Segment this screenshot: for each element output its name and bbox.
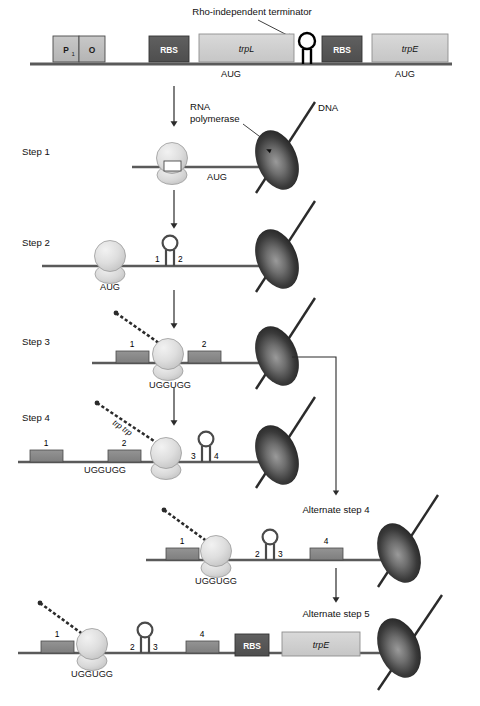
alternate-step-4-codon: UGGUGG (195, 576, 237, 586)
step-3-region-number-1: 1 (130, 339, 135, 349)
step-1-rna-polymerase (247, 124, 307, 196)
dna-label: DNA (318, 102, 339, 113)
alternate-step-5-group: Alternate step 5 1 4 RBS trpE 2 (18, 595, 442, 690)
step-3-rna-polymerase (247, 320, 307, 392)
step-1-label: Step 1 (22, 146, 50, 157)
operon-map: Rho-independent terminator P 1 O RBS trp… (30, 6, 452, 79)
operator-label: O (89, 45, 96, 55)
step-4-rna-polymerase (247, 419, 307, 491)
alternate-step-5-region-number-1: 1 (55, 629, 60, 639)
rna-polymerase-label-line1: RNA (190, 101, 211, 112)
step-3-codon: UGGUGG (149, 380, 191, 390)
step-2-label: Step 2 (22, 237, 50, 248)
alternate-step-5-ribosome (77, 629, 108, 671)
step-4-region-number-2: 2 (122, 438, 127, 448)
alternate-step-5-rna-polymerase (369, 612, 429, 684)
alternate-step-4-region-number-4: 4 (324, 536, 329, 546)
alternate-step-4-region-number-1: 1 (180, 536, 185, 546)
step-3-label: Step 3 (22, 336, 50, 347)
step-3-group: Step 3 1 2 UGGUGG (22, 298, 315, 392)
rbs-label-1: RBS (160, 45, 178, 55)
step-4-region-number-3: 3 (191, 451, 196, 461)
step-1-codon: AUG (207, 172, 227, 182)
promoter-label: P (63, 45, 69, 55)
step-4-region-box-2 (108, 450, 141, 462)
rbs-label-2: RBS (333, 45, 351, 55)
step-3-ribosome (153, 339, 184, 381)
step-2-ribosome (95, 241, 126, 284)
alternate-step-5-region-number-2: 2 (130, 642, 135, 652)
alternate-step-4-region-number-3: 3 (278, 549, 283, 559)
alternate-step-5-polypeptide-chain (38, 601, 88, 638)
step-3-region-number-2: 2 (202, 339, 207, 349)
step-3-region-box-1 (116, 351, 149, 363)
alternate-step-5-trpe-label: trpE (313, 640, 331, 650)
step-2-group: Step 2 1 2 AUG (22, 201, 315, 295)
step-4-codon: UGGUGG (84, 465, 126, 475)
step-4-region-number-1: 1 (44, 438, 49, 448)
terminator-hairpin (299, 33, 315, 64)
step-2-rna-polymerase (247, 223, 307, 295)
alternate-step-4-ribosome (201, 536, 232, 578)
trpe-label: trpE (402, 44, 420, 54)
step-4-region-box-1 (30, 450, 63, 462)
step-1-ribosome (157, 143, 188, 185)
trpe-start-codon: AUG (395, 69, 415, 79)
step-2-hairpin: 1 2 (155, 236, 183, 266)
alternate-step-5-codon: UGGUGG (71, 669, 113, 679)
alternate-step-5-region-number-4: 4 (200, 629, 205, 639)
step-2-codon: AUG (100, 282, 120, 292)
alternate-step-4-region-box-1 (166, 548, 199, 560)
alternate-step-5-rbs-label: RBS (243, 641, 261, 651)
trpl-label: trpL (239, 44, 255, 54)
alternate-step-4-region-number-2: 2 (255, 549, 260, 559)
step-4-region-number-4: 4 (214, 451, 219, 461)
step-3-region-box-2 (188, 351, 221, 363)
diagram-canvas: Rho-independent terminator P 1 O RBS trp… (0, 0, 480, 706)
alternate-step-5-label: Alternate step 5 (302, 608, 369, 619)
alternate-step-4-rna-polymerase (369, 517, 429, 589)
trp-operon-attenuation-figure: Rho-independent terminator P 1 O RBS trp… (0, 0, 480, 706)
step-2-region-number-2: 2 (178, 254, 183, 264)
alternate-step-5-region-box-4 (186, 641, 219, 653)
alternate-step-4-hairpin: 2 3 (255, 530, 283, 560)
step-1-group: Step 1 RNA polymerase DNA AUG (22, 101, 339, 196)
step-4-trp-label: trp trp (111, 418, 134, 438)
branch-to-alternate-step4 (292, 357, 336, 494)
alternate-step-5-hairpin: 2 3 (130, 623, 158, 653)
step-4-hairpin: 3 4 (191, 432, 219, 462)
alternate-step-4-group: Alternate step 4 1 4 2 3 (146, 495, 438, 589)
step-4-group: Step 4 1 2 trp trp 3 4 (18, 397, 315, 491)
alternate-step-4-region-box-4 (310, 548, 343, 560)
alternate-step-4-polypeptide-chain (162, 508, 212, 545)
alternate-step-4-label: Alternate step 4 (302, 504, 370, 515)
terminator-label: Rho-independent terminator (192, 6, 312, 17)
step-2-region-number-1: 1 (155, 254, 160, 264)
alternate-step-5-region-number-3: 3 (153, 642, 158, 652)
alternate-step-5-region-box-1 (41, 641, 74, 653)
step-4-ribosome (151, 438, 182, 480)
rna-polymerase-label-line2: polymerase (190, 113, 240, 124)
step-4-label: Step 4 (22, 412, 50, 423)
trpl-start-codon: AUG (221, 69, 241, 79)
step-1-ribosome-channel (164, 161, 181, 171)
step-4-polypeptide-chain: trp trp (95, 401, 163, 447)
